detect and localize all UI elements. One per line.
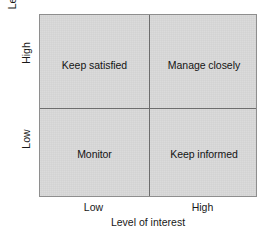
- x-axis-tick-high: High: [148, 200, 257, 214]
- horizontal-divider-line: [40, 108, 256, 109]
- y-axis-tick-high: High: [18, 11, 34, 95]
- stakeholder-power-interest-matrix: Level of influence (power) High Low Keep…: [0, 0, 269, 236]
- quadrant-label-manage-closely: Manage closely: [150, 59, 258, 72]
- quadrant-label-keep-informed: Keep informed: [150, 148, 258, 161]
- x-axis-tick-low: Low: [39, 200, 148, 214]
- y-axis-tick-low: Low: [18, 97, 34, 181]
- quadrant-label-keep-satisfied: Keep satisfied: [40, 59, 149, 72]
- matrix-plot-area: Keep satisfied Manage closely Monitor Ke…: [39, 14, 257, 197]
- x-axis-title: Level of interest: [39, 215, 257, 229]
- quadrant-label-monitor: Monitor: [40, 148, 149, 161]
- vertical-divider-line: [149, 15, 150, 196]
